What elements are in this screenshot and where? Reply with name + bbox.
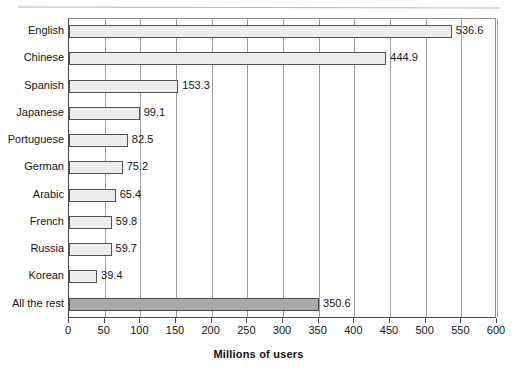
x-axis-tick-label: 400 — [344, 324, 362, 337]
bar-value-label: 65.4 — [120, 188, 141, 201]
bar-value-label: 153.3 — [182, 79, 210, 92]
bar-row: 350.6 — [69, 292, 495, 318]
x-axis-tick-label: 200 — [201, 324, 219, 337]
x-axis-tick — [353, 318, 354, 323]
bar-value-label: 82.5 — [132, 133, 153, 146]
cropped-title-fragment — [70, 0, 270, 3]
category-label: French — [2, 215, 64, 228]
category-label: Spanish — [2, 79, 64, 92]
x-axis-tick — [496, 318, 497, 323]
category-label: Chinese — [2, 51, 64, 64]
x-axis-tick — [460, 318, 461, 323]
bar-row: 59.8 — [69, 210, 495, 236]
x-axis-tick-label: 300 — [273, 324, 291, 337]
category-axis-labels: EnglishChineseSpanishJapanesePortugueseG… — [0, 18, 64, 318]
category-label: Japanese — [2, 106, 64, 119]
x-axis-tick-label: 100 — [130, 324, 148, 337]
bar-value-label: 99.1 — [144, 106, 165, 119]
x-axis-tick — [104, 318, 105, 323]
bar — [69, 25, 452, 38]
x-axis-tick-label: 0 — [65, 324, 71, 337]
bar-row: 65.4 — [69, 183, 495, 209]
x-axis-tick — [389, 318, 390, 323]
bar — [69, 134, 128, 147]
x-axis-tick-label: 250 — [237, 324, 255, 337]
bar-chart: EnglishChineseSpanishJapanesePortugueseG… — [0, 0, 517, 372]
category-label: Korean — [2, 269, 64, 282]
x-axis-tick-label: 150 — [166, 324, 184, 337]
bar-value-label: 59.8 — [116, 215, 137, 228]
bar-row: 536.6 — [69, 19, 495, 45]
x-axis-tick — [139, 318, 140, 323]
bar — [69, 270, 97, 283]
bar — [69, 107, 140, 120]
x-axis-tick — [211, 318, 212, 323]
bar-value-label: 39.4 — [101, 269, 122, 282]
bar-row: 99.1 — [69, 101, 495, 127]
bar-value-label: 536.6 — [456, 24, 484, 37]
bar — [69, 52, 386, 65]
x-axis-tick — [246, 318, 247, 323]
category-label: Portuguese — [2, 133, 64, 146]
bar — [69, 216, 112, 229]
bar-value-label: 444.9 — [390, 51, 418, 64]
bar-row: 153.3 — [69, 74, 495, 100]
bar — [69, 80, 178, 93]
x-axis-tick — [282, 318, 283, 323]
category-label: German — [2, 160, 64, 173]
x-axis-tick-labels: 050100150200250300350400450500550600 — [0, 324, 517, 338]
bar-value-label: 350.6 — [323, 297, 351, 310]
top-divider-rule — [18, 6, 500, 8]
gridline — [497, 19, 498, 317]
x-axis-tick-label: 450 — [380, 324, 398, 337]
bar-value-label: 75.2 — [127, 160, 148, 173]
x-axis-tick-label: 50 — [98, 324, 110, 337]
bar-row: 444.9 — [69, 46, 495, 72]
bar-row: 39.4 — [69, 264, 495, 290]
bar-value-label: 59.7 — [116, 242, 137, 255]
x-axis-tick — [68, 318, 69, 323]
bar-row: 82.5 — [69, 128, 495, 154]
x-axis-title: Millions of users — [0, 348, 517, 360]
x-axis-tick — [425, 318, 426, 323]
category-label: Russia — [2, 242, 64, 255]
bar — [69, 161, 123, 174]
bar — [69, 189, 116, 202]
bar-row: 59.7 — [69, 237, 495, 263]
x-axis-tick-label: 550 — [451, 324, 469, 337]
plot-area: 536.6444.9153.399.182.575.265.459.859.73… — [68, 18, 496, 318]
x-axis-ticks — [68, 318, 496, 323]
x-axis-tick-label: 600 — [487, 324, 505, 337]
x-axis-tick — [175, 318, 176, 323]
bar-row: 75.2 — [69, 155, 495, 181]
x-axis-tick-label: 500 — [415, 324, 433, 337]
bar — [69, 298, 319, 311]
category-label: English — [2, 24, 64, 37]
x-axis-tick — [318, 318, 319, 323]
category-label: Arabic — [2, 188, 64, 201]
x-axis-tick-label: 350 — [308, 324, 326, 337]
category-label: All the rest — [2, 297, 64, 310]
bar — [69, 243, 112, 256]
